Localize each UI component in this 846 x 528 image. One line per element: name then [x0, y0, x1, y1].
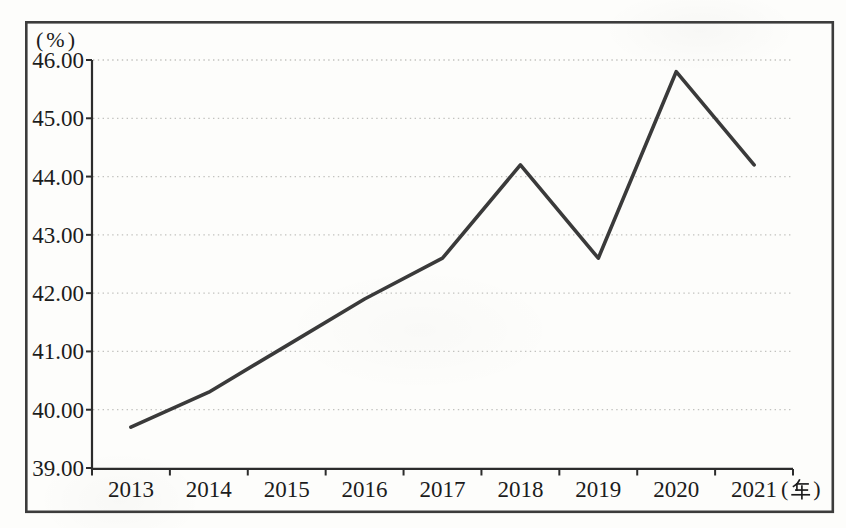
x-axis-tick-label: 2015 — [264, 477, 310, 502]
x-axis-tick-label: 2020 — [653, 477, 699, 502]
figure-border — [26, 22, 833, 512]
x-axis-tick-label: 2013 — [108, 477, 154, 502]
x-axis-tick-label: 2014 — [186, 477, 233, 502]
x-axis-tick-label: 2018 — [497, 477, 543, 502]
year-character-icon — [790, 478, 811, 500]
x-axis-tick-label: 2016 — [342, 477, 388, 502]
y-axis-tick-label: 40.00 — [32, 398, 84, 423]
line-chart: 46.0045.0044.0043.0042.0041.0040.0039.00… — [0, 0, 846, 528]
y-axis-tick-label: 41.00 — [32, 339, 84, 364]
x-axis-unit-label: ( ) — [781, 476, 821, 502]
y-axis-unit-label: (%) — [36, 27, 78, 53]
y-axis-tick-label: 42.00 — [32, 281, 84, 306]
y-axis-tick-label: 43.00 — [32, 223, 84, 248]
x-axis-tick-label: 2017 — [420, 477, 466, 502]
x-axis-unit-close-paren: ) — [813, 476, 820, 502]
scanned-chart-page: 46.0045.0044.0043.0042.0041.0040.0039.00… — [0, 0, 846, 528]
x-axis-tick-label: 2021 — [731, 477, 777, 502]
y-axis-tick-label: 39.00 — [32, 456, 84, 481]
axis-lines — [92, 60, 793, 469]
y-axis-tick-label: 44.00 — [32, 165, 84, 190]
x-axis-unit-open-paren: ( — [781, 476, 788, 502]
y-axis-tick-label: 45.00 — [32, 106, 84, 131]
data-line — [131, 72, 754, 428]
x-axis-tick-label: 2019 — [575, 477, 621, 502]
